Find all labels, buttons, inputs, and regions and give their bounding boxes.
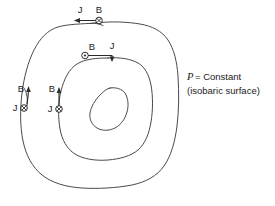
diagram-canvas: J B J ===== --> B J [0, 0, 275, 206]
top-inner-field-label: B [89, 41, 95, 52]
top-inner-field-out-of-page-icon [82, 52, 89, 59]
top-inner-current-arrowhead [110, 56, 115, 62]
left-outer-field-label: B [18, 83, 24, 94]
marker-top-outer: J B [74, 4, 102, 24]
top-outer-current-label: J [78, 4, 83, 15]
annotation-isobaric-surface: (isobaric surface) [187, 85, 260, 96]
inner-blob-path [90, 88, 128, 131]
annotation-pressure-symbol: P [186, 71, 194, 82]
left-inner-current-label: J [48, 103, 53, 114]
top-outer-field-label: B [96, 4, 102, 15]
left-inner-current-into-page-icon [56, 106, 63, 113]
left-outer-current-into-page-icon [21, 105, 28, 112]
top-outer-current-arrowhead [74, 18, 80, 23]
left-outer-field-arrowhead [26, 86, 31, 92]
top-inner-current-label: J [110, 40, 115, 51]
left-inner-field-label: B [49, 83, 55, 94]
left-inner-field-arrowhead [57, 87, 62, 93]
middle-contour-path [59, 58, 153, 161]
annotation-block: P = Constant (isobaric surface) [186, 71, 260, 96]
left-outer-current-label: J [13, 102, 18, 113]
outer-contour-path [21, 22, 179, 188]
top-outer-field-into-page-icon [96, 17, 103, 24]
marker-left-inner: B J [48, 83, 63, 114]
annotation-pressure-value: = Constant [195, 71, 242, 82]
isobaric-surface-diagram: J B J ===== --> B J [0, 0, 275, 206]
